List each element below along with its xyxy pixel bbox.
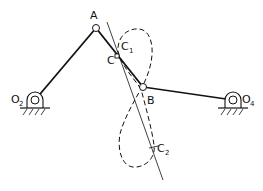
coupler-link <box>96 28 143 87</box>
label-c1-subscript: 1 <box>129 47 133 55</box>
ground-support-o2 <box>20 92 50 115</box>
label-c2-subscript: 2 <box>165 149 169 157</box>
tangent-line <box>107 22 163 180</box>
joint-a <box>93 25 100 32</box>
label-a: A <box>90 9 98 22</box>
joint-b <box>140 84 147 91</box>
label-b: B <box>147 94 155 107</box>
label-o4-subscript: 4 <box>250 100 255 108</box>
point-c-marker <box>115 54 119 58</box>
label-o2-subscript: 2 <box>19 100 23 108</box>
four-bar-linkage-diagram: A B C C 1 C 2 O 2 O 4 <box>0 0 263 191</box>
label-c2: C <box>157 142 165 155</box>
label-c: C <box>107 54 115 67</box>
crank-link <box>35 28 96 100</box>
rocker-link <box>143 87 233 100</box>
label-c1: C <box>121 40 129 53</box>
